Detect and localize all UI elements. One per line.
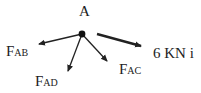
force-label-fad-sub: AD	[43, 77, 57, 88]
force-arrow-ad	[68, 34, 82, 71]
force-label-fab: FAB	[6, 44, 28, 60]
force-label-fad: FAD	[35, 74, 58, 90]
applied-force-label: 6 KN i	[153, 46, 194, 61]
applied-force-arrow	[97, 34, 141, 46]
force-label-fab-sub: AB	[14, 47, 28, 58]
point-a-dot	[79, 31, 86, 38]
force-label-fac-sub: AC	[127, 65, 141, 76]
point-a-label: A	[79, 4, 90, 19]
force-arrow-ac	[82, 34, 107, 61]
force-label-fac: FAC	[119, 62, 141, 78]
force-arrow-ab	[39, 34, 82, 44]
